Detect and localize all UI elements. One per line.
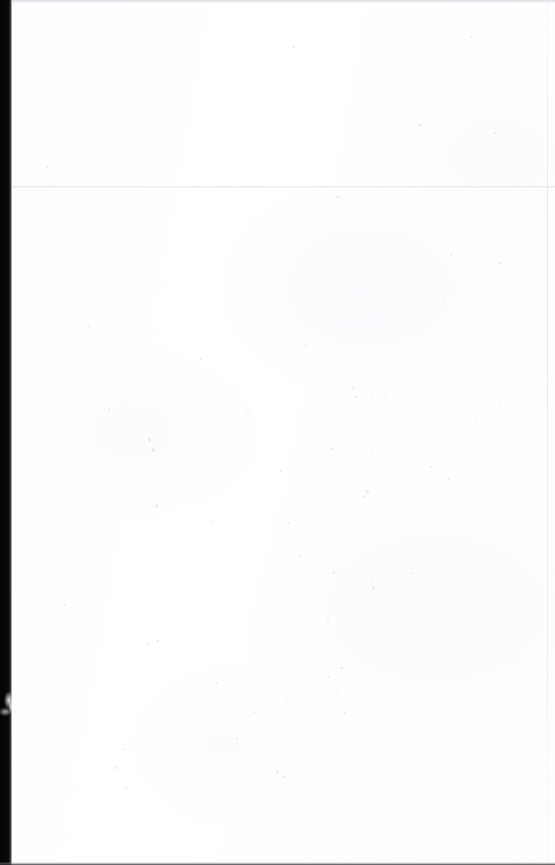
binding-gutter [0, 0, 12, 865]
top-edge-band [12, 0, 555, 4]
paper-surface [0, 0, 555, 865]
scanned-page: Scanned blank page. No text, headings, f… [0, 0, 555, 865]
horizontal-scan-seam [12, 186, 555, 188]
right-edge-line [547, 0, 548, 865]
